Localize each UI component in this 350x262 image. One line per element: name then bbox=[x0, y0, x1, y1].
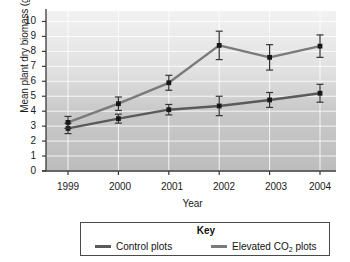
legend-swatch-elevated-co2 bbox=[211, 245, 227, 248]
chart-figure: Mean plant dry biomass (g) 10 9 8 7 6 5 … bbox=[0, 0, 350, 262]
legend-entry-elevated-co2[interactable]: Elevated CO2 plots bbox=[211, 241, 317, 253]
legend-key-box: Key Control plots Elevated CO2 plots bbox=[80, 222, 330, 256]
plot-area bbox=[0, 0, 350, 200]
legend-swatch-control bbox=[95, 245, 111, 248]
legend-label-elevated-co2-prefix: Elevated CO bbox=[232, 241, 289, 252]
legend-label-control: Control plots bbox=[116, 241, 172, 252]
legend-entry-control[interactable]: Control plots bbox=[95, 241, 172, 252]
legend-label-elevated-co2-suffix: plots bbox=[293, 241, 317, 252]
legend-title: Key bbox=[81, 225, 331, 236]
plot-background bbox=[46, 11, 336, 171]
